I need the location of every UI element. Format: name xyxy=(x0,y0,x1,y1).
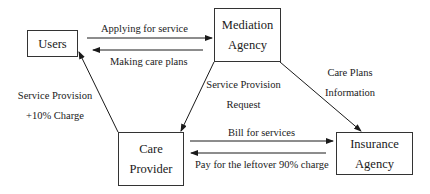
label-service-provision-line2: +10% Charge xyxy=(15,106,95,126)
node-mediation-label-1: Mediation xyxy=(222,15,273,35)
label-making-care-plans: Making care plans xyxy=(110,55,188,68)
label-pay-leftover: Pay for the leftover 90% charge xyxy=(195,158,329,171)
node-insurance-label-2: Agency xyxy=(355,154,394,174)
node-users: Users xyxy=(27,30,78,57)
label-service-provision-charge: Service Provision +10% Charge xyxy=(15,86,95,126)
node-users-label: Users xyxy=(38,34,66,54)
node-care-provider: Care Provider xyxy=(118,132,184,186)
node-mediation-label-2: Agency xyxy=(228,35,267,55)
node-mediation-agency: Mediation Agency xyxy=(214,8,281,62)
node-care-label-1: Care xyxy=(139,139,163,159)
label-service-request-line2: Request xyxy=(206,95,281,115)
label-care-plans-info: Care Plans Information xyxy=(322,63,378,103)
node-insurance-label-1: Insurance xyxy=(350,134,399,154)
node-insurance-agency: Insurance Agency xyxy=(336,132,413,175)
label-care-plans-line1: Care Plans xyxy=(322,63,378,83)
label-service-request: Service Provision Request xyxy=(206,75,281,115)
label-care-plans-line2: Information xyxy=(322,83,378,103)
label-bill-for-services: Bill for services xyxy=(228,126,295,139)
node-care-label-2: Provider xyxy=(129,159,172,179)
label-service-provision-line1: Service Provision xyxy=(15,86,95,106)
label-service-request-line1: Service Provision xyxy=(206,75,281,95)
label-applying-for-service: Applying for service xyxy=(101,22,188,35)
